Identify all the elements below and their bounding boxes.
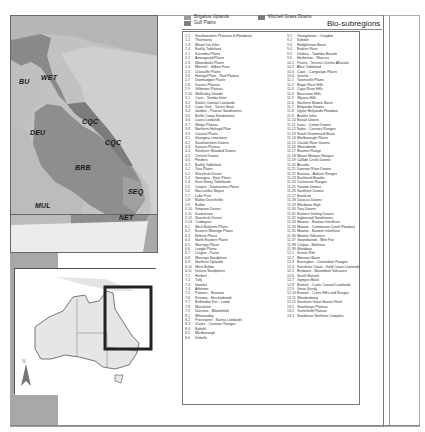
north-arrow-icon — [20, 360, 32, 388]
legend-label-gulf: Gulf Plains — [194, 20, 216, 25]
legend-label-mitchell: Mitchell Grass Downs — [268, 14, 312, 19]
locator-inset-map[interactable] — [14, 268, 156, 394]
legend-item: 8.6Debella — [185, 336, 285, 340]
region-label-mul: MUL — [35, 202, 51, 209]
legend-column-right: 9.1Georgetown - Croydon9.2Kidston9.3Hodg… — [287, 34, 361, 318]
region-label-cqc-north: CQC — [82, 118, 98, 125]
region-label-bu: BU — [19, 78, 30, 85]
bottom-rule — [10, 425, 420, 426]
legend-item-name: Debella — [195, 336, 207, 340]
region-label-deu: DEU — [30, 129, 45, 136]
legend-column-left: 1.1Southwestern Plateaus & Floodouts1.2T… — [185, 34, 285, 340]
region-label-brb: BRB — [75, 164, 91, 171]
region-label-wet: WET — [41, 74, 57, 81]
legend-item: 13.3Nandewar Northern Complex — [287, 314, 361, 318]
legend-title: Bio-subregions — [327, 19, 380, 28]
legend-label-brigalow: Brigalow Uplands — [194, 14, 229, 19]
region-label-cqc-south: CQC — [105, 139, 121, 146]
legend-item-code: 8.6 — [185, 336, 195, 340]
region-label-net: NET — [119, 215, 134, 221]
legend-divider — [182, 29, 382, 30]
legend-item-name: Nandewar Northern Complex — [297, 314, 344, 318]
right-margin-panel — [384, 15, 420, 427]
main-map[interactable]: WET BU CQC DEU CQC BRB SEQ MUL — [10, 15, 158, 215]
legend-swatch-mitchell — [258, 15, 265, 20]
main-map-lower: NET — [10, 215, 158, 253]
legend-swatch-brigalow — [184, 15, 191, 20]
map-lower-graphic — [11, 215, 158, 253]
region-label-seq: SEQ — [128, 188, 143, 195]
bio-subregions-legend: 1.1Southwestern Plateaus & Floodouts1.2T… — [182, 31, 360, 405]
australia-outline-graphic — [15, 269, 157, 395]
bioregion-map-graphic — [11, 16, 158, 215]
legend-item-code: 13.3 — [287, 314, 297, 318]
legend-swatch-gulf — [184, 21, 191, 26]
